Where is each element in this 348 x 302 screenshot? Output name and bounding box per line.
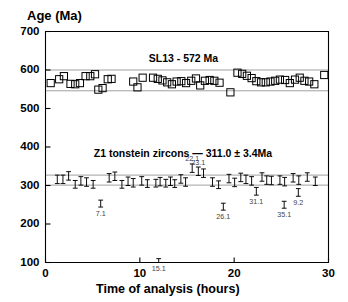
y-tick-label-600: 600 — [10, 63, 40, 75]
data-point-errorbar — [227, 174, 232, 182]
data-point-square — [173, 78, 180, 85]
data-point-square — [248, 74, 255, 81]
data-point-errorbar — [249, 177, 254, 185]
data-point-errorbar — [296, 189, 301, 197]
data-point-errorbar — [278, 176, 283, 184]
data-point-errorbar — [126, 177, 131, 185]
data-point-square — [296, 74, 303, 81]
data-point-square — [182, 79, 189, 86]
data-point-square — [67, 80, 74, 87]
data-point-square — [87, 73, 94, 80]
data-point-errorbar — [264, 176, 269, 184]
data-point-errorbar — [201, 169, 206, 177]
data-point-errorbar — [178, 175, 183, 183]
data-point-square — [139, 74, 146, 81]
data-point-square — [243, 72, 250, 79]
data-point-errorbar — [66, 172, 71, 180]
data-point-label-26-1: 26.1 — [209, 212, 237, 221]
data-point-errorbar — [163, 179, 168, 187]
y-tick-label-700: 700 — [10, 25, 40, 37]
data-point-errorbar — [221, 203, 226, 210]
data-point-square — [227, 89, 234, 96]
data-point-square — [311, 81, 318, 88]
data-point-errorbar — [196, 167, 201, 175]
data-point-errorbar — [153, 179, 158, 187]
x-tick-label-20: 20 — [222, 267, 246, 279]
data-point-errorbar — [172, 180, 177, 188]
data-point-errorbar — [131, 179, 136, 187]
data-point-label-7-1: 7.1 — [87, 209, 115, 218]
data-point-errorbar — [238, 173, 243, 181]
data-point-errorbar — [305, 173, 310, 181]
x-tick-label-0: 0 — [34, 267, 58, 279]
data-point-errorbar — [260, 173, 265, 181]
data-point-errorbar — [158, 177, 163, 185]
data-point-errorbar — [269, 176, 274, 184]
data-point-label-9-2: 9.2 — [284, 198, 312, 207]
data-point-errorbar — [282, 177, 287, 185]
age-vs-time-scatter-figure: Age (Ma) Time of analysis (hours) 100200… — [0, 0, 348, 302]
data-point-square — [168, 81, 175, 88]
data-point-errorbar — [156, 259, 161, 263]
data-point-square — [321, 71, 328, 78]
series-0 — [47, 69, 328, 96]
data-point-errorbar — [78, 177, 83, 185]
data-point-square — [82, 73, 89, 80]
data-point-square — [60, 73, 67, 80]
data-point-errorbar — [112, 172, 117, 180]
data-point-square — [197, 82, 204, 89]
data-point-errorbar — [120, 180, 125, 188]
data-point-square — [91, 71, 98, 78]
data-point-errorbar — [139, 177, 144, 185]
data-point-errorbar — [168, 177, 173, 185]
z1-tonstein-label: Z1 tonstein zircons — 311.0 ± 3.4Ma — [94, 147, 273, 159]
y-tick-label-500: 500 — [10, 102, 40, 114]
data-point-errorbar — [313, 177, 318, 185]
data-point-label-15-1: 15.1 — [145, 264, 173, 273]
data-point-label-35-1: 35.1 — [270, 210, 298, 219]
data-point-square — [216, 79, 223, 86]
data-point-square — [47, 79, 54, 86]
y-tick-label-300: 300 — [10, 179, 40, 191]
data-point-square — [178, 78, 185, 85]
data-point-errorbar — [244, 175, 249, 183]
data-point-errorbar — [91, 180, 96, 188]
data-point-errorbar — [55, 175, 60, 183]
data-point-errorbar — [98, 200, 103, 207]
data-point-square — [192, 75, 199, 82]
sl13-standard-label: SL13 - 572 Ma — [149, 52, 218, 64]
data-point-square — [164, 79, 171, 86]
y-tick-label-400: 400 — [10, 140, 40, 152]
data-point-square — [188, 77, 195, 84]
data-point-square — [56, 76, 63, 83]
x-tick-label-30: 30 — [317, 267, 341, 279]
data-point-errorbar — [254, 187, 259, 195]
y-tick-label-200: 200 — [10, 217, 40, 229]
data-point-errorbar — [145, 180, 150, 188]
data-point-errorbar — [73, 180, 78, 188]
data-point-errorbar — [61, 175, 66, 183]
data-point-errorbar — [296, 176, 301, 184]
data-point-label-31-1: 31.1 — [242, 197, 270, 206]
data-point-square — [282, 76, 289, 83]
